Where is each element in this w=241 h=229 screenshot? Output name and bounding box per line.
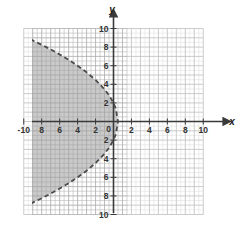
tick-label: 10 xyxy=(99,24,109,34)
tick-label: -10 xyxy=(18,125,31,135)
tick-label: 4 xyxy=(75,125,80,135)
tick-label: 0 xyxy=(106,124,111,134)
tick-label: 8 xyxy=(104,42,109,52)
x-axis-label: x xyxy=(228,116,235,127)
tick-label: 8 xyxy=(183,125,188,135)
coordinate-plane-graph: -1086420246810108642246810 y x xyxy=(0,0,241,229)
tick-label: 4 xyxy=(104,154,109,164)
tick-label: 6 xyxy=(165,125,170,135)
tick-label: 6 xyxy=(104,172,109,182)
tick-label: 6 xyxy=(57,125,62,135)
tick-label: 4 xyxy=(147,125,152,135)
tick-label: 2 xyxy=(129,125,134,135)
tick-label: 4 xyxy=(104,79,109,89)
graph-canvas: -1086420246810108642246810 y x xyxy=(0,0,241,229)
tick-label: 2 xyxy=(104,135,109,145)
tick-label: 10 xyxy=(99,210,109,220)
y-axis-label: y xyxy=(108,4,115,15)
tick-label: 10 xyxy=(199,125,209,135)
tick-label: 2 xyxy=(93,125,98,135)
tick-label: 8 xyxy=(104,191,109,201)
tick-label: 6 xyxy=(104,61,109,71)
tick-label: 8 xyxy=(39,125,44,135)
tick-label: 2 xyxy=(104,98,109,108)
